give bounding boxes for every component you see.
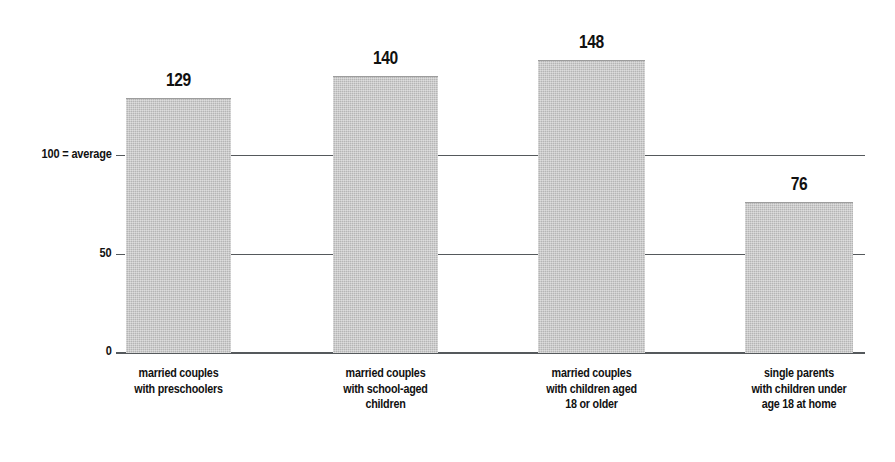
bar-chart: 100 = average 50 0 129 140 148 76 marrie… [0,0,895,462]
gridline-100 [126,155,865,156]
bar-married-couples-with-preschoolers [126,98,231,353]
tick-100 [116,155,125,156]
bar-single-parents-with-children-under-age-18-at-home [745,202,853,353]
bar-value-label: 148 [548,31,636,53]
bar-value-label: 140 [342,47,428,69]
x-category-label: married coupleswith school-agedchildren [299,366,472,413]
bar-value-label: 129 [135,69,221,91]
x-category-label: married coupleswith preschoolers [92,366,265,397]
tick-50 [116,254,125,255]
plot-area: 100 = average 50 0 129 140 148 76 marrie… [0,0,895,462]
bar-value-label: 76 [755,173,844,195]
bar-married-couples-with-school-aged-children [333,76,438,353]
y-tick-label-50: 50 [100,246,112,260]
y-tick-label-100: 100 = average [42,147,112,161]
x-category-label: single parentswith children underage 18 … [711,366,887,413]
bar-married-couples-with-children-aged-18-or-older [538,60,645,353]
x-category-label: married coupleswith children aged18 or o… [504,366,679,413]
y-tick-label-0: 0 [106,344,112,358]
